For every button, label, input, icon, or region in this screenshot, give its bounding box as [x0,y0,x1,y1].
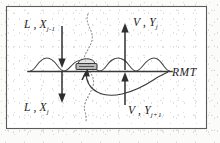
label-rmt: RMT [171,66,198,78]
label-liquid-out-main: L , X [23,101,48,114]
label-liquid-in-sub: j-1 [46,25,55,33]
label-liquid-out-sub: j [46,108,49,116]
label-vapor-in-main: V , Y [128,104,152,117]
label-vapor-out-sub: j [155,23,158,31]
label-liquid-in-main: L , X [23,18,48,31]
tray-diagram-figure: L , Xj-1 L , Xj V , Yj V , Yj+1 RMT [0,0,220,143]
label-vapor-in-sub: j+1 [150,111,162,119]
label-vapor-out-main: V , Y [133,16,157,29]
